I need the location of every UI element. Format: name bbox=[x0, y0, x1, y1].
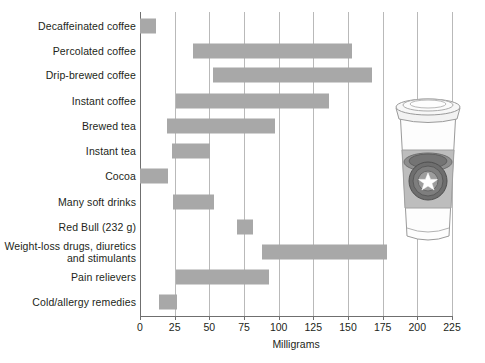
bar-weight-loss-drugs-diuretics-and-stimulants bbox=[262, 245, 387, 260]
xtick-0 bbox=[140, 316, 141, 320]
bar-instant-coffee bbox=[176, 94, 329, 109]
gridline-175 bbox=[383, 12, 384, 316]
bar-brewed-tea bbox=[167, 119, 276, 134]
category-label-percolated-coffee: Percolated coffee bbox=[53, 45, 136, 57]
x-axis-line bbox=[140, 316, 452, 317]
xtick-150 bbox=[348, 316, 349, 320]
category-label-cold-allergy-remedies: Cold/allergy remedies bbox=[32, 296, 136, 308]
y-axis-line bbox=[140, 12, 141, 316]
xtick-label-75: 75 bbox=[238, 321, 250, 333]
bar-pain-relievers bbox=[176, 270, 269, 285]
category-label-instant-coffee: Instant coffee bbox=[72, 95, 136, 107]
bar-percolated-coffee bbox=[193, 44, 352, 59]
xtick-50 bbox=[209, 316, 210, 320]
xtick-100 bbox=[279, 316, 280, 320]
bar-many-soft-drinks bbox=[173, 195, 214, 210]
xtick-label-175: 175 bbox=[374, 321, 392, 333]
xtick-label-100: 100 bbox=[270, 321, 288, 333]
bar-cocoa bbox=[140, 169, 168, 184]
xtick-175 bbox=[383, 316, 384, 320]
caffeine-range-chart: Decaffeinated coffee Percolated coffee D… bbox=[0, 0, 485, 363]
category-label-many-soft-drinks: Many soft drinks bbox=[58, 196, 136, 208]
category-label-brewed-tea: Brewed tea bbox=[82, 120, 136, 132]
category-label-cocoa: Cocoa bbox=[105, 170, 136, 182]
xtick-125 bbox=[313, 316, 314, 320]
xtick-label-225: 225 bbox=[443, 321, 461, 333]
bar-red-bull-232-g bbox=[237, 220, 253, 235]
category-label-decaffeinated-coffee: Decaffeinated coffee bbox=[38, 20, 136, 32]
category-label-weight-loss-drugs: Weight-loss drugs, diuretics and stimula… bbox=[0, 240, 136, 264]
xtick-label-50: 50 bbox=[203, 321, 215, 333]
xtick-200 bbox=[417, 316, 418, 320]
bar-decaffeinated-coffee bbox=[140, 19, 156, 34]
category-label-drip-brewed-coffee: Drip-brewed coffee bbox=[46, 69, 136, 81]
category-label-red-bull: Red Bull (232 g) bbox=[59, 221, 136, 233]
bar-drip-brewed-coffee bbox=[213, 68, 372, 83]
x-axis-title: Milligrams bbox=[140, 338, 452, 350]
xtick-25 bbox=[175, 316, 176, 320]
xtick-label-200: 200 bbox=[409, 321, 427, 333]
xtick-label-0: 0 bbox=[137, 321, 143, 333]
xtick-label-125: 125 bbox=[305, 321, 323, 333]
category-label-pain-relievers: Pain relievers bbox=[71, 271, 136, 283]
bar-instant-tea bbox=[172, 144, 211, 159]
category-label-instant-tea: Instant tea bbox=[86, 145, 136, 157]
xtick-label-25: 25 bbox=[169, 321, 181, 333]
xtick-label-150: 150 bbox=[339, 321, 357, 333]
xtick-225 bbox=[452, 316, 453, 320]
xtick-75 bbox=[244, 316, 245, 320]
to-go-coffee-cup-illustration bbox=[388, 88, 468, 256]
bar-cold-allergy-remedies bbox=[159, 295, 178, 310]
